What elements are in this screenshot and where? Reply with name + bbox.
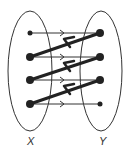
bipartite-diagram: X Y — [0, 0, 131, 151]
point-x4 — [26, 100, 34, 108]
point-y1 — [96, 29, 104, 37]
point-y4 — [98, 102, 103, 107]
point-x3 — [26, 76, 34, 84]
set-y-label: Y — [99, 135, 107, 147]
point-y3 — [96, 76, 104, 84]
set-x-ellipse — [8, 11, 52, 131]
set-y-ellipse — [80, 11, 122, 131]
point-y2 — [96, 53, 104, 61]
set-x-label: X — [26, 135, 35, 147]
thick-edges — [30, 33, 100, 104]
point-x1 — [28, 31, 33, 36]
point-x2 — [26, 53, 34, 61]
